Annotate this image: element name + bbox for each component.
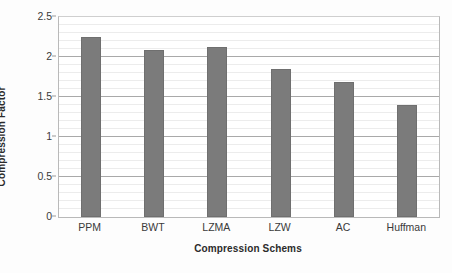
x-axis-tick-label: LZMA — [185, 221, 248, 239]
x-axis-tick-label: PPM — [58, 221, 121, 239]
y-axis-tick-mark — [52, 96, 56, 97]
bar-slot — [122, 17, 185, 217]
bar-slot — [312, 17, 375, 217]
bar[interactable] — [207, 47, 227, 217]
x-axis-tick-label: Huffman — [375, 221, 438, 239]
y-axis-tick-label: 0.5 — [37, 170, 52, 182]
bar[interactable] — [81, 37, 101, 217]
bar[interactable] — [334, 82, 354, 217]
x-axis-tick-label: AC — [311, 221, 374, 239]
x-axis-tick-label: LZW — [248, 221, 311, 239]
y-axis-tick-label: 1.5 — [37, 90, 52, 102]
y-axis-tick-labels: 00.511.522.5 — [30, 16, 56, 216]
y-axis-tick-mark — [52, 136, 56, 137]
y-axis-tick-label: 2.5 — [37, 10, 52, 22]
y-axis-tick-mark — [52, 176, 56, 177]
bar-slot — [186, 17, 249, 217]
y-axis-tick-mark — [52, 56, 56, 57]
x-axis-tick-label: BWT — [121, 221, 184, 239]
y-axis-title: Compression Factor — [0, 0, 30, 273]
bar[interactable] — [397, 105, 417, 217]
bar[interactable] — [271, 69, 291, 217]
y-axis-tick-mark — [52, 216, 56, 217]
bar-chart: Compression Factor 00.511.522.5 PPMBWTLZ… — [0, 0, 452, 273]
bar-slot — [376, 17, 439, 217]
bar[interactable] — [144, 50, 164, 217]
x-axis-title: Compression Schems — [58, 243, 438, 254]
x-axis-tick-labels: PPMBWTLZMALZWACHuffman — [58, 221, 438, 239]
plot-area — [58, 16, 440, 218]
bar-slot — [249, 17, 312, 217]
y-axis-tick-mark — [52, 16, 56, 17]
bars-container — [59, 17, 439, 217]
bar-slot — [59, 17, 122, 217]
